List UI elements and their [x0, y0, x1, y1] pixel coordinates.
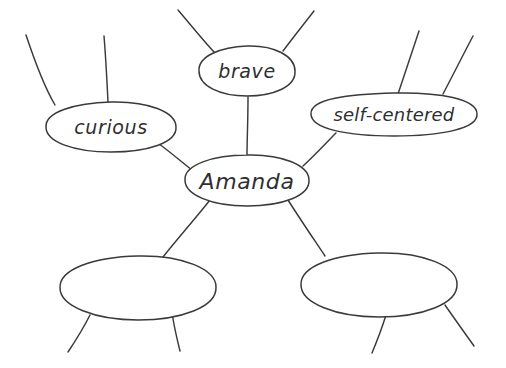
node-outline-curious[interactable] [46, 102, 176, 152]
node-outlines [46, 46, 477, 320]
link-amanda-blank-left [163, 200, 210, 257]
character-web-diagram: Amanda curious brave self-centered [0, 0, 506, 368]
node-outline-blank-right[interactable] [301, 253, 457, 317]
node-outline-self-centered[interactable] [311, 93, 477, 136]
spoke-blank-right-b [445, 305, 474, 346]
link-amanda-brave [247, 97, 248, 155]
node-outline-blank-left[interactable] [60, 256, 216, 320]
spoke-brave-b [283, 11, 314, 51]
node-outline-amanda[interactable] [185, 155, 309, 206]
diagram-canvas [0, 0, 506, 368]
link-amanda-blank-right [288, 200, 325, 256]
node-outline-brave[interactable] [199, 46, 295, 96]
link-amanda-self-centered [303, 133, 336, 166]
spoke-curious-a [26, 35, 55, 105]
spoke-blank-right-a [372, 315, 386, 353]
spoke-brave-a [178, 10, 214, 52]
spoke-self-centered-a [398, 31, 419, 94]
spoke-curious-b [104, 36, 108, 102]
spoke-blank-left-a [68, 315, 90, 352]
spoke-blank-left-b [172, 313, 180, 351]
spoke-self-centered-b [443, 36, 473, 94]
